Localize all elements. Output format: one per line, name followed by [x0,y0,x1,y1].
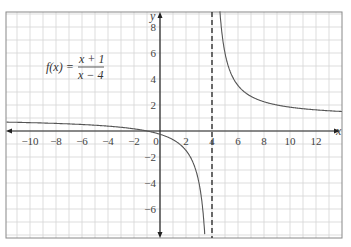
y-axis-label: y [149,9,156,23]
y-tick-label: −2 [144,151,156,163]
y-tick-label: −6 [144,203,156,215]
x-tick-label: 6 [235,135,241,147]
y-axis-up-arrow-icon [158,12,163,18]
x-tick-label: 12 [311,135,322,147]
x-tick-label: 8 [261,135,267,147]
function-graph: −10−8−6−4−2024681012 8642−2−4−6 x y f(x)… [0,0,351,247]
y-axis [158,12,163,238]
function-denominator: x − 4 [77,68,103,82]
x-tick-label: 2 [183,135,189,147]
y-tick-label: 2 [151,99,157,111]
x-tick-label: −6 [76,135,88,147]
x-tick-label: −2 [128,135,140,147]
grid [6,12,342,238]
x-tick-label: −10 [21,135,39,147]
plot-frame [6,12,342,238]
x-tick-label: −4 [102,135,114,147]
x-axis-left-arrow-icon [6,129,12,134]
x-axis-label: x [335,124,342,138]
y-tick-label: −4 [144,177,156,189]
x-tick-label: 4 [209,135,215,147]
function-lhs: f(x) = [46,60,74,74]
x-tick-label: 0 [153,135,159,147]
x-tick-label: 10 [285,135,297,147]
y-tick-label: 4 [151,73,157,85]
function-numerator: x + 1 [78,52,104,66]
function-label: f(x) = x + 1 x − 4 [46,52,104,82]
y-tick-label: 6 [151,47,157,59]
x-tick-label: −8 [50,135,62,147]
x-tick-labels: −10−8−6−4−2024681012 [21,135,321,147]
